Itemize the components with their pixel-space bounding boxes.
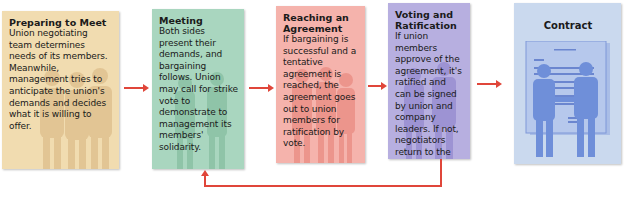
step-preparing-to-meet: Preparing to Meet Union negotiating team… bbox=[2, 11, 119, 169]
step-title: Voting and Ratification bbox=[395, 9, 464, 31]
step-description: Union negotiating team determines needs … bbox=[9, 28, 113, 132]
step-description: Both sides present their demands, and ba… bbox=[159, 26, 238, 154]
step-title: Preparing to Meet bbox=[9, 17, 113, 28]
arrow-right-icon bbox=[124, 87, 144, 89]
arrow-right-icon bbox=[249, 87, 269, 89]
arrow-right-icon bbox=[477, 83, 497, 85]
feedback-loop-line bbox=[204, 185, 442, 187]
step-description: If bargaining is successful and a tentat… bbox=[283, 34, 359, 150]
arrow-up-icon bbox=[201, 170, 209, 176]
contract-handshake-icon bbox=[524, 41, 614, 159]
feedback-loop-line bbox=[204, 176, 206, 187]
step-voting-and-ratification: Voting and Ratification If union members… bbox=[388, 3, 470, 159]
step-description: If union members approve of the agreemen… bbox=[395, 31, 464, 159]
step-title: Reaching an Agreement bbox=[283, 12, 359, 34]
step-contract: Contract bbox=[514, 3, 621, 164]
step-title: Contract bbox=[521, 20, 615, 31]
step-meeting: Meeting Both sides present their demands… bbox=[152, 9, 244, 169]
feedback-loop-line bbox=[440, 159, 442, 186]
step-reaching-an-agreement: Reaching an Agreement If bargaining is s… bbox=[276, 6, 365, 163]
step-title: Meeting bbox=[159, 15, 238, 26]
arrow-right-icon bbox=[368, 85, 382, 87]
